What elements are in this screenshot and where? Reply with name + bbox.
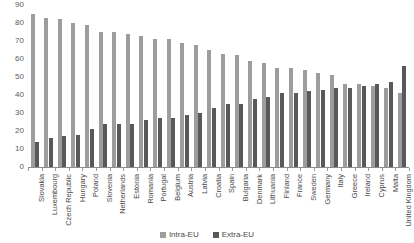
legend-swatch-icon: [213, 232, 219, 238]
bar-intra-eu: [330, 75, 334, 167]
bar-group: [180, 5, 189, 167]
bar-group: [221, 5, 230, 167]
x-tick-mark: [246, 168, 247, 171]
bar-group: [303, 5, 312, 167]
bar-intra-eu: [44, 18, 48, 167]
x-axis-label: United Kingdom: [405, 174, 413, 227]
bar-extra-eu: [185, 115, 189, 167]
bar-intra-eu: [275, 68, 279, 167]
x-axis-label: Portugal: [160, 174, 168, 202]
bar-extra-eu: [307, 91, 311, 167]
x-axis-label: France: [296, 174, 304, 197]
x-axis-label: Belgium: [174, 174, 182, 201]
bar-extra-eu: [117, 124, 121, 167]
bar-group: [99, 5, 108, 167]
x-axis-label: Germany: [324, 174, 332, 204]
x-axis-label: Denmark: [256, 174, 264, 204]
bar-intra-eu: [221, 54, 225, 167]
x-tick-mark: [82, 168, 83, 171]
bar-extra-eu: [212, 108, 216, 167]
x-tick-mark: [395, 168, 396, 171]
x-axis-label: Ireland: [364, 174, 372, 197]
bar-chart: 0102030405060708090 SlovakiaLuxembourgCz…: [0, 0, 414, 243]
bar-intra-eu: [126, 34, 130, 167]
bar-intra-eu: [99, 32, 103, 167]
bar-extra-eu: [266, 97, 270, 167]
bar-group: [330, 5, 339, 167]
x-axis-label: Italy: [337, 174, 345, 188]
x-axis-label: Romania: [147, 174, 155, 204]
bar-extra-eu: [171, 118, 175, 167]
x-axis-label: Luxembourg: [51, 174, 59, 215]
x-axis-label: Spain: [228, 174, 236, 193]
bar-intra-eu: [343, 84, 347, 167]
x-tick-mark: [300, 168, 301, 171]
bar-extra-eu: [348, 88, 352, 167]
x-tick-mark: [137, 168, 138, 171]
legend-label: Intra-EU: [169, 230, 199, 239]
bar-group: [31, 5, 40, 167]
y-tick-label: 90: [15, 1, 24, 9]
bar-extra-eu: [76, 135, 80, 167]
y-tick-label: 60: [15, 55, 24, 63]
bar-extra-eu: [280, 93, 284, 167]
y-tick-label: 0: [20, 163, 24, 171]
y-tick-label: 50: [15, 73, 24, 81]
bar-group: [235, 5, 244, 167]
x-tick-mark: [178, 168, 179, 171]
bar-extra-eu: [239, 104, 243, 167]
bar-extra-eu: [49, 138, 53, 167]
bar-intra-eu: [248, 61, 252, 167]
bar-intra-eu: [357, 84, 361, 167]
bar-group: [44, 5, 53, 167]
x-tick-mark: [42, 168, 43, 171]
bar-extra-eu: [226, 104, 230, 167]
bar-extra-eu: [389, 82, 393, 167]
bar-group: [343, 5, 352, 167]
chart-legend: Intra-EU Extra-EU: [0, 228, 414, 241]
bar-group: [126, 5, 135, 167]
x-axis-label: Croatia: [215, 174, 223, 198]
y-tick-label: 30: [15, 109, 24, 117]
bar-extra-eu: [321, 90, 325, 167]
x-axis-label: Czech Republic: [65, 174, 73, 226]
bar-intra-eu: [153, 39, 157, 167]
x-axis-label: Sweden: [310, 174, 318, 201]
bar-extra-eu: [253, 99, 257, 167]
x-tick-mark: [327, 168, 328, 171]
bar-group: [316, 5, 325, 167]
x-axis-label: Cyprus: [378, 174, 386, 197]
bar-intra-eu: [303, 70, 307, 167]
bar-extra-eu: [334, 88, 338, 167]
x-axis-label: Slovakia: [38, 174, 46, 202]
bar-extra-eu: [362, 86, 366, 167]
bar-extra-eu: [130, 124, 134, 167]
x-axis-labels: SlovakiaLuxembourgCzech RepublicHungaryP…: [28, 172, 409, 228]
bar-intra-eu: [112, 32, 116, 167]
x-tick-mark: [355, 168, 356, 171]
bar-extra-eu: [402, 66, 406, 167]
bar-group: [384, 5, 393, 167]
bar-extra-eu: [375, 84, 379, 167]
bar-group: [371, 5, 380, 167]
bar-intra-eu: [31, 14, 35, 167]
y-tick-label: 70: [15, 37, 24, 45]
bar-intra-eu: [316, 73, 320, 167]
bar-intra-eu: [167, 39, 171, 167]
x-tick-mark: [110, 168, 111, 171]
y-tick-label: 10: [15, 145, 24, 153]
bar-intra-eu: [235, 55, 239, 167]
x-tick-mark: [164, 168, 165, 171]
y-tick-label: 80: [15, 19, 24, 27]
x-tick-mark: [123, 168, 124, 171]
bar-intra-eu: [180, 43, 184, 167]
bar-group: [262, 5, 271, 167]
x-tick-mark: [409, 168, 410, 171]
bar-group: [71, 5, 80, 167]
legend-swatch-icon: [160, 232, 166, 238]
bar-intra-eu: [194, 45, 198, 167]
bar-group: [357, 5, 366, 167]
bar-extra-eu: [144, 120, 148, 167]
bar-intra-eu: [398, 93, 402, 167]
x-tick-mark: [273, 168, 274, 171]
